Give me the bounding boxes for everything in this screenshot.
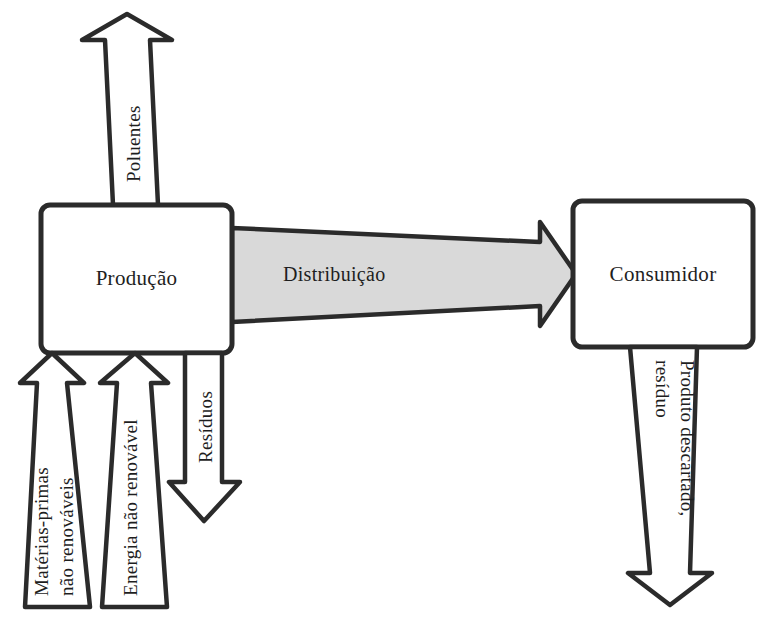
produto-descartado-label-line-1: Produto descartado, xyxy=(677,360,698,517)
flow-arrow-materias-primas: Matérias-primas não renováveis xyxy=(20,353,90,607)
flow-arrow-residuos: Resíduos xyxy=(169,353,240,521)
flow-arrow-produto-descartado: Produto descartado, resíduo xyxy=(628,347,712,605)
produto-descartado-label-line-2: resíduo xyxy=(652,360,673,418)
node-producao[interactable]: Produção xyxy=(41,205,232,353)
flow-arrow-poluentes: Poluentes xyxy=(82,14,172,205)
consumidor-label: Consumidor xyxy=(610,262,717,286)
distribuicao-label: Distribuição xyxy=(283,263,385,286)
producao-label: Produção xyxy=(96,266,178,290)
flow-arrow-distribuicao: Distribuição xyxy=(232,222,576,326)
materias-primas-label-line-2: não renováveis xyxy=(56,477,77,596)
diagram-canvas: Poluentes Distribuição Produção Consumid… xyxy=(0,0,780,627)
node-consumidor[interactable]: Consumidor xyxy=(573,201,753,347)
flow-arrow-energia: Energia não renovável xyxy=(100,353,168,607)
process-flow-diagram: Poluentes Distribuição Produção Consumid… xyxy=(0,0,780,627)
residuos-label: Resíduos xyxy=(195,391,216,463)
energia-label-line-1: Energia não renovável xyxy=(120,419,141,596)
poluentes-label: Poluentes xyxy=(123,105,144,182)
materias-primas-label-line-1: Matérias-primas xyxy=(31,467,52,596)
